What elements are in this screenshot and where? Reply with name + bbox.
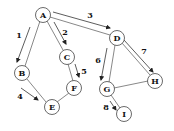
edge-g-h (114, 81, 148, 88)
node-g: G (100, 82, 115, 97)
edge-d-g (109, 45, 115, 82)
order-label-7: 7 (141, 46, 147, 56)
edge-c-f (68, 64, 73, 81)
order-label-5: 5 (81, 66, 87, 76)
node-g-label: G (104, 84, 111, 94)
node-f-label: F (71, 83, 77, 93)
node-e-label: E (49, 102, 55, 112)
node-c: C (60, 50, 75, 65)
node-b-label: B (19, 68, 26, 78)
traversal-arrows (17, 12, 153, 110)
arrow-3-icon (53, 12, 110, 28)
arrow-8-icon (110, 101, 116, 110)
node-d: D (110, 31, 125, 46)
node-d-label: D (114, 33, 121, 43)
graph-diagram: 1 2 3 4 5 6 7 8 A B C D E F (0, 0, 174, 131)
node-c-label: C (64, 52, 70, 62)
node-i: I (117, 107, 132, 122)
order-labels: 1 2 3 4 5 6 7 8 (16, 10, 147, 112)
order-label-6: 6 (95, 55, 101, 65)
order-label-4: 4 (17, 91, 23, 101)
edge-a-c (47, 21, 63, 50)
arrow-5-icon (75, 64, 79, 77)
node-a: A (36, 8, 51, 23)
arrow-6-icon (101, 48, 107, 80)
node-e: E (45, 100, 60, 115)
order-label-8: 8 (103, 102, 109, 112)
node-h: H (148, 74, 163, 89)
node-i-label: I (122, 109, 126, 119)
edge-g-i (111, 95, 120, 108)
node-h-label: H (151, 76, 159, 86)
arrow-7-icon (124, 40, 153, 72)
node-f: F (67, 81, 82, 96)
node-b: B (15, 66, 30, 81)
edges (25, 17, 150, 108)
order-label-1: 1 (16, 30, 22, 40)
edge-a-b (25, 21, 40, 66)
edge-e-f (57, 93, 69, 102)
node-a-label: A (39, 10, 47, 20)
order-label-3: 3 (87, 10, 93, 20)
arrow-4-icon (21, 88, 38, 100)
order-label-2: 2 (62, 27, 68, 37)
nodes: A B C D E F G H (15, 8, 163, 122)
